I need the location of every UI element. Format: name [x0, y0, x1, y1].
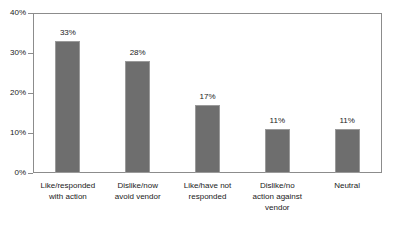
y-axis-tick-label: 40%: [10, 9, 26, 17]
x-axis-category-label-line: vendor: [237, 202, 317, 213]
bar: [195, 105, 220, 173]
bar-value-label: 11%: [317, 117, 377, 125]
bar: [265, 129, 290, 173]
x-axis-category-label: Like/have notresponded: [168, 180, 248, 202]
x-axis-category-label-line: Neutral: [307, 180, 387, 191]
x-axis-category-label-line: avoid vendor: [98, 191, 178, 202]
x-axis-category-label-line: Like/responded: [28, 180, 108, 191]
y-axis-tick: [28, 173, 33, 174]
x-axis-category-label: Dislike/nowavoid vendor: [98, 180, 178, 202]
x-axis-category-label: Like/respondedwith action: [28, 180, 108, 202]
x-axis-category-label-line: Dislike/now: [98, 180, 178, 191]
y-axis-tick-label: 10%: [10, 129, 26, 137]
x-axis-category-label: Neutral: [307, 180, 387, 191]
x-axis-category-label-line: Dislike/no: [237, 180, 317, 191]
bar-value-label: 33%: [38, 29, 98, 37]
y-axis-tick-label: 0%: [14, 169, 26, 177]
bar-value-label: 28%: [108, 49, 168, 57]
x-axis-category-label-line: Like/have not: [168, 180, 248, 191]
x-axis-category-label: Dislike/noaction againstvendor: [237, 180, 317, 213]
y-axis-tick-label: 30%: [10, 49, 26, 57]
bar-chart-figure: 0%10%20%30%40% 33%28%17%11%11% Like/resp…: [0, 0, 398, 226]
bar-value-label: 11%: [247, 117, 307, 125]
bar-value-label: 17%: [178, 93, 238, 101]
bar: [125, 61, 150, 173]
x-axis-category-label-line: responded: [168, 191, 248, 202]
bar: [55, 41, 80, 173]
bar: [335, 129, 360, 173]
y-axis-tick-label: 20%: [10, 89, 26, 97]
x-axis-category-label-line: action against: [237, 191, 317, 202]
x-axis-category-label-line: with action: [28, 191, 108, 202]
